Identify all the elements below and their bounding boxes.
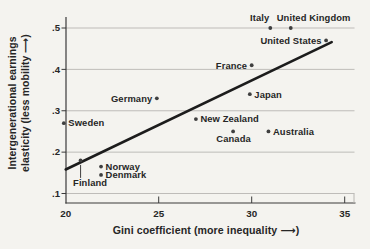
point-finland [79,159,83,163]
label-canada: Canada [216,133,251,144]
x-tick-label-20: 20 [60,208,71,219]
y-tick-label-.5: .5 [52,22,61,33]
scatter-chart: .1.2.3.4.520253035 SwedenFinlandNorwayDe… [0,0,370,249]
x-tick-label-35: 35 [339,208,350,219]
label-germany: Germany [111,93,153,104]
label-united-kingdom: United Kingdom [277,12,351,23]
point-italy [268,26,272,30]
point-japan [248,92,252,96]
y-tick-label-.3: .3 [52,105,60,116]
great-gatsby-curve-figure: .1.2.3.4.520253035 SwedenFinlandNorwayDe… [0,0,370,249]
trend-layer [66,42,332,169]
label-sweden: Sweden [68,117,104,128]
label-italy: Italy [250,12,270,23]
point-united-states [324,39,328,43]
label-finland: Finland [73,177,107,188]
point-layer [62,26,328,177]
label-australia: Australia [273,126,315,137]
point-denmark [99,173,103,177]
label-denmark: Denmark [106,169,148,180]
y-tick-label-.2: .2 [52,146,60,157]
x-tick-label-30: 30 [246,208,257,219]
x-axis-title: Gini coefficient (more inequality ⟶) [113,224,300,236]
trend-line [66,42,332,169]
y-axis-title-line2: elasticity (less mobility ⟶) [20,34,31,172]
label-united-states: United States [260,35,321,46]
label-new-zealand: New Zealand [200,113,259,124]
y-axis-title-line1: Intergenerational earnings [7,36,18,169]
point-germany [155,96,159,100]
point-france [250,63,254,67]
point-norway [99,165,103,169]
label-france: France [216,60,247,71]
point-australia [267,130,271,134]
point-new-zealand [194,117,198,121]
point-sweden [62,121,66,125]
x-tick-label-25: 25 [153,208,164,219]
point-united-kingdom [289,26,293,30]
label-japan: Japan [254,89,282,100]
y-tick-label-.1: .1 [52,188,61,199]
y-tick-label-.4: .4 [52,64,61,75]
